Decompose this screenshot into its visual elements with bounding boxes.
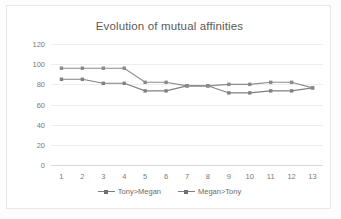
gridline <box>51 165 323 166</box>
data-point-marker <box>143 81 146 84</box>
data-point-marker <box>185 84 188 87</box>
x-axis-tick-label: 10 <box>246 172 254 181</box>
series-lines <box>51 44 323 165</box>
x-axis-tick-label: 6 <box>164 172 168 181</box>
data-point-marker <box>290 89 293 92</box>
data-point-marker <box>102 82 105 85</box>
data-point-marker <box>164 89 167 92</box>
chart-legend: Tony>MeganMegan>Tony <box>7 187 332 196</box>
data-point-marker <box>269 89 272 92</box>
data-point-marker <box>227 91 230 94</box>
legend-item-1[interactable]: Tony>Megan <box>98 187 161 196</box>
data-point-marker <box>123 67 126 70</box>
data-point-marker <box>81 67 84 70</box>
series-2 <box>60 67 314 90</box>
data-point-marker <box>164 81 167 84</box>
x-axis-tick-label: 11 <box>267 172 275 181</box>
x-axis-tick-label: 5 <box>143 172 147 181</box>
chart-title: Evolution of mutual affinities <box>7 20 332 32</box>
plot-area: 020406080100120 12345678910111213 <box>51 44 323 165</box>
y-axis-tick-label: 40 <box>37 120 45 129</box>
data-point-marker <box>123 82 126 85</box>
x-axis-tick-label: 1 <box>59 172 63 181</box>
y-axis-tick-label: 80 <box>37 80 45 89</box>
data-point-marker <box>227 83 230 86</box>
data-point-marker <box>60 67 63 70</box>
x-axis-tick-label: 9 <box>227 172 231 181</box>
x-axis-tick-label: 4 <box>122 172 126 181</box>
x-axis-tick-label: 2 <box>80 172 84 181</box>
y-axis-tick-label: 100 <box>32 60 45 69</box>
data-point-marker <box>248 91 251 94</box>
legend-label: Megan>Tony <box>198 187 241 196</box>
data-point-marker <box>269 81 272 84</box>
legend-marker-icon <box>98 188 115 195</box>
y-axis-tick-label: 20 <box>37 140 45 149</box>
legend-marker-icon <box>178 188 195 195</box>
y-axis-tick-label: 120 <box>32 40 45 49</box>
x-axis-tick-label: 3 <box>101 172 105 181</box>
y-axis-tick-label: 60 <box>37 100 45 109</box>
chart-frame: Evolution of mutual affinities 020406080… <box>6 5 331 209</box>
data-point-marker <box>143 89 146 92</box>
data-point-marker <box>81 78 84 81</box>
data-point-marker <box>102 67 105 70</box>
y-axis-tick-label: 0 <box>41 161 45 170</box>
x-axis-tick-label: 12 <box>287 172 295 181</box>
legend-label: Tony>Megan <box>118 187 161 196</box>
x-axis-tick-label: 8 <box>206 172 210 181</box>
data-point-marker <box>60 78 63 81</box>
x-axis-tick-label: 7 <box>185 172 189 181</box>
data-point-marker <box>206 84 209 87</box>
data-point-marker <box>311 86 314 89</box>
data-point-marker <box>290 81 293 84</box>
legend-item-2[interactable]: Megan>Tony <box>178 187 241 196</box>
data-point-marker <box>248 83 251 86</box>
x-axis-tick-label: 13 <box>308 172 316 181</box>
